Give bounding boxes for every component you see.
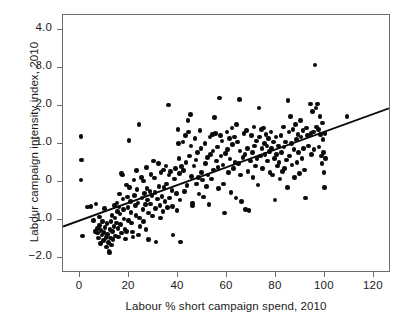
y-axis-tick: [57, 143, 62, 144]
y-axis-tick-label: −1.0: [0, 211, 52, 223]
y-axis-tick: [57, 219, 62, 220]
data-point: [177, 156, 182, 161]
data-point: [129, 221, 134, 226]
x-axis-tick-label: 80: [255, 279, 295, 291]
data-point: [260, 146, 265, 151]
data-point: [237, 97, 242, 102]
data-point: [161, 168, 166, 173]
data-point: [118, 222, 123, 227]
x-axis-tick-label: 40: [157, 279, 197, 291]
caption-remnant-text: [4, 0, 204, 6]
x-axis-tick-label: 100: [304, 279, 344, 291]
data-point: [293, 122, 298, 127]
data-point: [79, 134, 84, 139]
data-point: [199, 170, 204, 175]
data-point: [163, 199, 168, 204]
y-axis-tick-label: 4.0: [0, 21, 52, 33]
data-point: [182, 189, 187, 194]
data-point: [279, 133, 284, 138]
data-point: [143, 202, 148, 207]
x-axis-tick: [79, 272, 80, 277]
data-point: [221, 182, 226, 187]
y-axis-tick-label: 2.0: [0, 97, 52, 109]
data-point: [134, 168, 139, 173]
data-point: [269, 146, 274, 151]
scatter-plot-figure: 020406080100120 4.03.02.01.00−1.0−2.0 La…: [0, 0, 407, 331]
data-point: [321, 150, 326, 155]
data-point: [229, 190, 234, 195]
data-point: [288, 114, 293, 119]
data-point: [207, 202, 212, 207]
data-point: [251, 175, 256, 180]
data-point: [308, 102, 313, 107]
y-axis-tick-label: 1.0: [0, 135, 52, 147]
data-point: [181, 168, 186, 173]
data-point: [127, 185, 132, 190]
data-point: [239, 199, 244, 204]
data-point: [142, 191, 147, 196]
data-point: [302, 168, 307, 173]
data-point: [117, 192, 122, 197]
data-point: [218, 133, 223, 138]
data-point: [200, 178, 205, 183]
data-point: [189, 174, 194, 179]
data-point: [144, 165, 149, 170]
data-point: [216, 186, 221, 191]
data-point: [209, 177, 214, 182]
data-point: [301, 146, 306, 151]
data-point: [188, 112, 193, 117]
data-point: [304, 126, 309, 131]
x-axis-tick-label: 120: [353, 279, 393, 291]
regression-trendline: [63, 108, 389, 226]
data-point: [212, 115, 217, 120]
data-point: [266, 136, 271, 141]
data-point: [193, 136, 198, 141]
data-point: [89, 204, 94, 209]
data-point: [161, 209, 166, 214]
y-axis-tick: [57, 257, 62, 258]
data-point: [137, 122, 142, 127]
data-point: [148, 202, 153, 207]
data-point: [175, 208, 180, 213]
data-point: [306, 144, 311, 149]
x-axis-tick: [324, 272, 325, 277]
x-axis-label: Labour % short campaign spend, 2010: [62, 300, 390, 312]
data-point: [282, 166, 287, 171]
y-axis-tick-label: 3.0: [0, 59, 52, 71]
x-axis-tick-label: 0: [59, 279, 99, 291]
data-point: [185, 183, 190, 188]
data-point: [254, 139, 259, 144]
data-point: [152, 176, 157, 181]
data-point: [132, 193, 137, 198]
data-point: [236, 161, 241, 166]
data-point: [186, 118, 191, 123]
data-point: [165, 205, 170, 210]
data-point: [102, 206, 107, 211]
data-point: [248, 159, 253, 164]
data-point: [127, 138, 132, 143]
data-point: [222, 211, 227, 216]
data-point: [203, 161, 208, 166]
data-point: [252, 144, 257, 149]
data-point: [249, 133, 254, 138]
data-point: [253, 164, 258, 169]
data-point: [144, 227, 149, 232]
data-point: [292, 175, 297, 180]
data-point: [194, 182, 199, 187]
x-axis-tick: [275, 272, 276, 277]
data-point: [183, 133, 188, 138]
data-point: [124, 229, 129, 234]
y-axis-tick: [57, 105, 62, 106]
data-point: [123, 237, 128, 242]
data-point: [310, 109, 315, 114]
data-point: [245, 146, 250, 151]
data-point: [323, 156, 328, 161]
data-point: [345, 114, 350, 119]
data-point: [303, 196, 308, 201]
data-point: [322, 185, 327, 190]
data-point: [107, 250, 112, 255]
data-point: [292, 147, 297, 152]
data-point: [250, 150, 255, 155]
data-point: [130, 230, 135, 235]
data-point: [155, 197, 160, 202]
